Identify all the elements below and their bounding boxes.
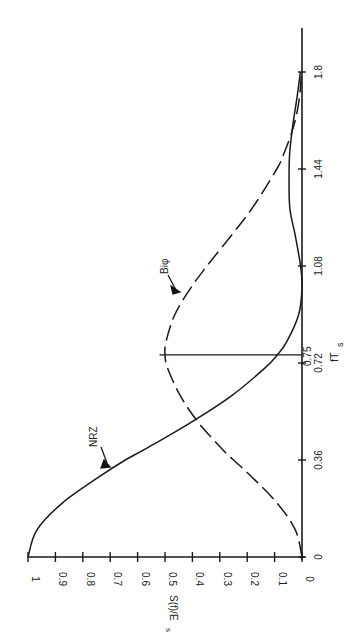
nrz-curve [28, 72, 302, 557]
svg-text:s: s [335, 342, 345, 347]
svg-text:fT: fT [328, 352, 340, 362]
x-tick-label: 0 [313, 554, 324, 560]
x-tick-label: 0.72 [313, 353, 324, 373]
axes [28, 28, 305, 560]
y-tick-label: 0.8 [85, 572, 96, 586]
y-tick-label: 0.9 [57, 572, 68, 586]
x-tick-label: 1.08 [313, 256, 324, 276]
x-tick-label: 0.36 [313, 450, 324, 470]
biphi-annotation: Biφ [159, 258, 180, 294]
nrz-annotation: NRZ [88, 426, 110, 468]
y-axis-title: S(f)/E s [164, 595, 179, 632]
y-tick-label: 0.1 [277, 572, 288, 586]
biphi-label: Biφ [159, 258, 170, 274]
x-tick-label: 1.44 [313, 159, 324, 179]
y-tick-label: 0 [304, 576, 315, 582]
y-tick-label: 0.6 [140, 572, 151, 586]
svg-text:S(f)/E: S(f)/E [168, 595, 179, 621]
nrz-label: NRZ [88, 426, 99, 447]
x-tick-label: 1.8 [313, 65, 324, 79]
y-tick-label: 0.2 [249, 572, 260, 586]
nrz-arrow-icon [101, 460, 110, 468]
y-tick-label: 0.4 [194, 572, 205, 586]
y-tick-label: 1 [30, 576, 41, 582]
y-tick-label: 0.3 [222, 572, 233, 586]
y-tick-label: 0.7 [112, 572, 123, 586]
biphi-curve [165, 72, 302, 557]
spectral-density-chart: 00.360.721.081.441.8 00.10.20.30.40.50.6… [0, 0, 350, 637]
y-tick-label: 0.5 [167, 572, 178, 586]
svg-text:s: s [164, 628, 173, 632]
marker-value-label: 0.75 [302, 346, 313, 366]
x-axis-title: fT s [328, 342, 345, 362]
